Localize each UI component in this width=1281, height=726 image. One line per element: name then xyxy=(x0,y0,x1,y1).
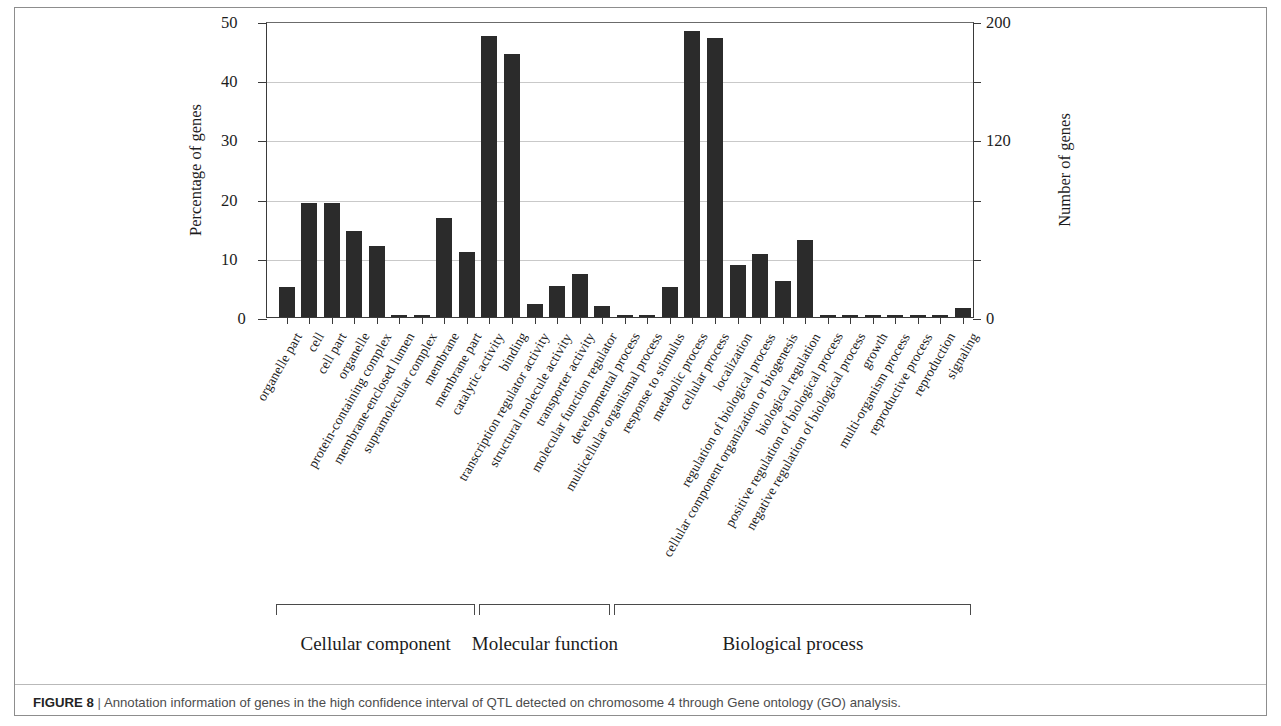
group-bracket xyxy=(276,604,475,615)
y-tick-right xyxy=(973,201,981,202)
x-category-label: organelle part xyxy=(254,330,306,404)
bar xyxy=(279,287,295,317)
bar xyxy=(572,274,588,317)
group-bracket xyxy=(479,604,610,615)
y-tick-label-left: 30 xyxy=(221,131,238,151)
x-tick xyxy=(399,317,400,324)
bar xyxy=(459,252,475,317)
x-tick xyxy=(647,317,648,324)
figure-caption: FIGURE 8 | Annotation information of gen… xyxy=(33,694,1248,711)
x-tick xyxy=(444,317,445,324)
y-tick-right xyxy=(973,82,981,83)
x-tick xyxy=(377,317,378,324)
group-label: Biological process xyxy=(722,633,863,655)
bar xyxy=(527,304,543,317)
x-tick xyxy=(692,317,693,324)
x-tick xyxy=(422,317,423,324)
y-tick-label-left: 50 xyxy=(221,13,238,33)
y-tick-label-left: 20 xyxy=(221,191,238,211)
bar xyxy=(594,306,610,317)
bar xyxy=(955,308,971,317)
x-tick xyxy=(354,317,355,324)
x-tick xyxy=(625,317,626,324)
x-tick xyxy=(805,317,806,324)
y-axis-title-left: Percentage of genes xyxy=(186,104,206,236)
x-tick xyxy=(332,317,333,324)
x-tick xyxy=(602,317,603,324)
x-tick xyxy=(670,317,671,324)
caption-divider xyxy=(15,684,1266,685)
group-bracket xyxy=(614,604,971,615)
caption-separator: | xyxy=(98,695,101,710)
bar xyxy=(549,286,565,317)
x-tick xyxy=(783,317,784,324)
x-tick xyxy=(287,317,288,324)
group-label: Cellular component xyxy=(300,633,450,655)
bar xyxy=(730,265,746,317)
x-tick xyxy=(963,317,964,324)
y-tick-left xyxy=(258,141,267,142)
bar xyxy=(324,203,340,317)
bar xyxy=(481,36,497,317)
bar xyxy=(504,54,520,317)
bar xyxy=(775,281,791,317)
y-tick-left xyxy=(258,23,267,24)
x-tick xyxy=(828,317,829,324)
y-tick-right xyxy=(973,23,981,24)
y-tick-left xyxy=(258,82,267,83)
plot-area: 01020304050 0120200 xyxy=(266,22,974,318)
y-tick-label-right: 120 xyxy=(986,131,1011,151)
bar-series xyxy=(267,23,973,317)
x-tick xyxy=(309,317,310,324)
x-tick xyxy=(940,317,941,324)
x-tick xyxy=(895,317,896,324)
y-tick-right xyxy=(973,319,981,320)
x-tick xyxy=(873,317,874,324)
group-label: Molecular function xyxy=(472,633,618,655)
y-tick-label-right: 0 xyxy=(986,309,994,329)
figure-label: FIGURE 8 xyxy=(33,695,94,710)
bar xyxy=(662,287,678,317)
bar xyxy=(346,231,362,317)
bar xyxy=(797,240,813,317)
bar xyxy=(684,31,700,317)
x-tick xyxy=(580,317,581,324)
x-tick xyxy=(557,317,558,324)
y-tick-label-left: 10 xyxy=(221,250,238,270)
bar xyxy=(436,218,452,317)
bar xyxy=(301,203,317,317)
x-tick xyxy=(489,317,490,324)
x-tick xyxy=(760,317,761,324)
x-tick xyxy=(738,317,739,324)
y-tick-right xyxy=(973,260,981,261)
y-tick-left xyxy=(258,319,267,320)
y-tick-right xyxy=(973,141,981,142)
bar xyxy=(707,38,723,317)
y-tick-left xyxy=(258,260,267,261)
y-tick-label-left: 0 xyxy=(238,309,246,329)
caption-text: Annotation information of genes in the h… xyxy=(104,695,901,710)
y-tick-label-left: 40 xyxy=(221,72,238,92)
x-tick xyxy=(850,317,851,324)
figure-container: Percentage of genes Number of genes 0102… xyxy=(0,0,1281,726)
y-tick-label-right: 200 xyxy=(986,13,1011,33)
bar xyxy=(752,254,768,317)
x-tick xyxy=(535,317,536,324)
x-tick xyxy=(918,317,919,324)
y-axis-title-right: Number of genes xyxy=(1055,113,1075,227)
x-tick xyxy=(467,317,468,324)
bar xyxy=(369,246,385,317)
y-tick-left xyxy=(258,201,267,202)
x-tick xyxy=(512,317,513,324)
x-tick xyxy=(715,317,716,324)
